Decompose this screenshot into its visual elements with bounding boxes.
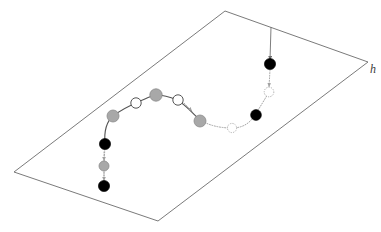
main-arc-solid-path bbox=[105, 95, 200, 144]
right-node-drop-arrow bbox=[269, 70, 270, 87]
parallelogram-plane bbox=[14, 11, 368, 221]
node-arc-gray-3 bbox=[194, 115, 206, 127]
node-right-black-1 bbox=[251, 110, 262, 121]
top-incoming-arrow bbox=[270, 27, 271, 60]
node-left-gray-1 bbox=[99, 161, 109, 171]
node-arc-white-1 bbox=[131, 98, 141, 108]
node-left-black-2 bbox=[98, 180, 109, 191]
node-arc-gray-1 bbox=[107, 110, 119, 122]
figure-canvas: h bbox=[0, 0, 381, 232]
mid-arc-arrow bbox=[184, 103, 192, 111]
node-arc-white-3 bbox=[227, 123, 236, 132]
node-arc-gray-2 bbox=[150, 89, 162, 101]
main-arc-dotted-path bbox=[200, 115, 255, 128]
node-right-white-1 bbox=[264, 87, 274, 97]
figure-root: h bbox=[0, 0, 381, 232]
node-top-black bbox=[264, 58, 275, 69]
node-arc-white-2 bbox=[173, 95, 183, 105]
plane-label-h: h bbox=[370, 62, 376, 76]
node-left-black-1 bbox=[99, 138, 110, 149]
